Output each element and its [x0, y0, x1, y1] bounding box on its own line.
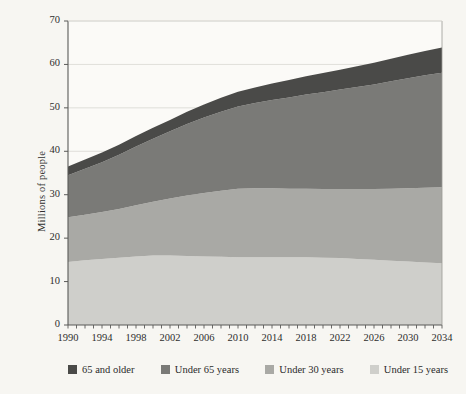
y-tick-label: 20: [34, 231, 60, 242]
legend-swatch-icon: [68, 365, 77, 374]
legend-swatch-icon: [265, 365, 274, 374]
y-tick-label: 70: [34, 14, 60, 25]
y-tick-label: 0: [34, 318, 60, 329]
legend-label: Under 30 years: [279, 364, 343, 375]
legend-item[interactable]: Under 15 years: [370, 364, 448, 375]
x-tick-label: 2034: [422, 332, 462, 343]
y-tick-label: 10: [34, 275, 60, 286]
area-band-under-15-years: [68, 256, 442, 325]
legend-label: Under 65 years: [175, 364, 239, 375]
area-chart: Millions of people 010203040506070 19901…: [0, 0, 466, 394]
legend-swatch-icon: [370, 365, 379, 374]
legend-swatch-icon: [161, 365, 170, 374]
legend-label: Under 15 years: [384, 364, 448, 375]
chart-legend: 65 and olderUnder 65 yearsUnder 30 years…: [68, 361, 448, 377]
y-tick-label: 30: [34, 188, 60, 199]
legend-label: 65 and older: [82, 364, 135, 375]
y-tick-label: 60: [34, 57, 60, 68]
legend-item[interactable]: Under 65 years: [161, 364, 239, 375]
y-tick-label: 50: [34, 101, 60, 112]
legend-item[interactable]: Under 30 years: [265, 364, 343, 375]
y-tick-label: 40: [34, 144, 60, 155]
legend-item[interactable]: 65 and older: [68, 364, 135, 375]
